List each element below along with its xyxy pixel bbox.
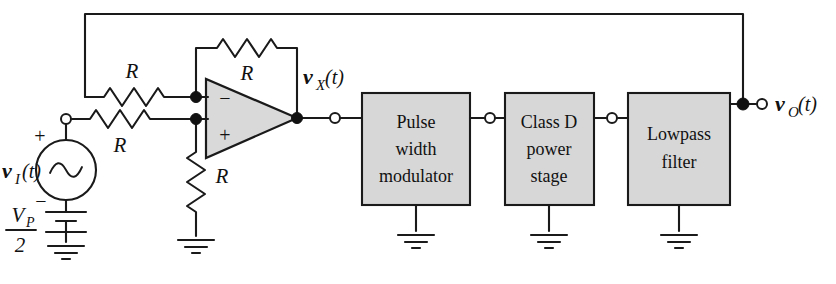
classd-line-2: power	[527, 139, 572, 159]
battery-denominator: 2	[15, 233, 26, 257]
classd-line-3: stage	[531, 166, 568, 186]
node-vo	[737, 98, 749, 110]
node-noninverting-input	[191, 114, 202, 125]
pwm-output-terminal	[485, 113, 495, 123]
pwm-line-1: Pulse	[396, 112, 435, 132]
source-voltage-subscript: I	[14, 171, 21, 187]
source-plus-sign: +	[34, 125, 45, 147]
battery-label: V P 2	[6, 203, 36, 257]
battery-numerator: V	[12, 203, 27, 227]
battery-numerator-subscript: P	[25, 215, 35, 230]
outer-feedback-wire	[85, 14, 743, 104]
resistor-input	[72, 110, 196, 128]
source-top-terminal	[61, 114, 71, 124]
source-voltage-paren: (t)	[22, 160, 41, 183]
source-voltage-symbol: v	[2, 158, 12, 183]
pwm-line-3: modulator	[379, 166, 453, 186]
vx-symbol: v	[303, 64, 313, 89]
node-vx-label: v X (t)	[303, 64, 344, 93]
opamp-inverting-input-sign: −	[219, 87, 230, 109]
block-class-d-power-stage: Class D power stage	[505, 93, 594, 231]
pwm-line-2: width	[395, 139, 436, 159]
vo-paren: (t)	[798, 93, 817, 116]
figure-caption-strip	[0, 271, 836, 284]
ground-class-d	[531, 235, 567, 248]
node-vx	[292, 113, 303, 124]
ground-source	[48, 246, 84, 259]
resistor-shunt-label: R	[215, 164, 229, 188]
vo-symbol: v	[775, 91, 785, 116]
ground-pwm	[398, 235, 434, 248]
source-voltage-label: v I (t)	[2, 158, 41, 187]
resistor-shunt	[187, 119, 205, 236]
block-pulse-width-modulator: Pulse width modulator	[362, 93, 470, 231]
node-inverting-input	[191, 92, 202, 103]
resistor-input-label: R	[113, 133, 127, 157]
lowpass-line-2: filter	[662, 152, 697, 172]
opamp-noninverting-input-sign: +	[219, 124, 230, 146]
resistor-feedback-outer-label: R	[125, 59, 139, 83]
vx-open-terminal	[330, 113, 340, 123]
source-minus-sign: −	[35, 190, 46, 212]
resistor-opamp-feedback-label: R	[240, 61, 254, 85]
circuit-figure: R R R + − v I (t)	[0, 0, 836, 284]
vo-open-terminal	[757, 99, 767, 109]
ground-shunt-resistor	[178, 240, 214, 253]
lowpass-line-1: Lowpass	[647, 124, 711, 144]
classd-line-1: Class D	[521, 112, 578, 132]
operational-amplifier: − +	[206, 79, 297, 158]
node-vo-label: v O (t)	[775, 91, 817, 120]
resistor-feedback-outer	[85, 88, 196, 106]
battery-vp-half	[46, 212, 86, 242]
classd-output-terminal	[607, 113, 617, 123]
schematic-canvas: R R R + − v I (t)	[0, 0, 836, 284]
block-lowpass-filter: Lowpass filter	[628, 93, 730, 231]
vx-paren: (t)	[325, 66, 344, 89]
ground-lowpass	[661, 235, 697, 248]
